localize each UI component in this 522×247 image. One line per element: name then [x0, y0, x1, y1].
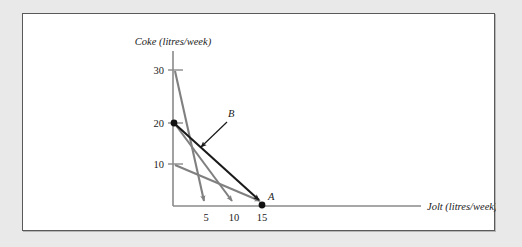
budget-line-2	[175, 124, 232, 201]
point-b-label: B	[228, 108, 235, 119]
y-tick-label-30: 30	[154, 65, 165, 76]
y-tick-label-20: 20	[154, 118, 165, 129]
figure-frame: 30 20 10 5 10 15 A B Coke (litres/week) …	[22, 13, 495, 231]
x-tick-label-5: 5	[203, 212, 208, 223]
x-tick-label-15: 15	[257, 212, 268, 223]
y-axis-title: Coke (litres/week)	[135, 36, 212, 48]
budget-line-3	[175, 165, 260, 201]
x-axis-title: Jolt (litres/week)	[427, 201, 496, 213]
x-tick-label-10: 10	[229, 212, 240, 223]
point-a-label: A	[267, 191, 275, 202]
axes-group	[173, 51, 421, 206]
endowment-point-marker	[171, 120, 178, 127]
budget-constraint-chart: 30 20 10 5 10 15 A B Coke (litres/week) …	[23, 14, 496, 232]
point-b-leader-line	[201, 122, 227, 147]
y-axis-ticks	[168, 70, 183, 164]
budget-line-B	[175, 124, 259, 200]
point-a-marker	[259, 202, 266, 209]
y-tick-label-10: 10	[154, 159, 165, 170]
